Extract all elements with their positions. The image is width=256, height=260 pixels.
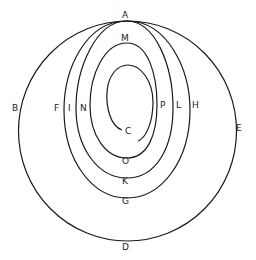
label-a: A [122,10,129,20]
loop-mno [90,43,157,158]
label-l: L [176,100,181,110]
label-g: G [122,196,129,206]
label-e: E [236,123,242,133]
label-b: B [12,103,18,113]
label-o: O [122,156,129,166]
label-n: N [80,103,87,113]
label-m: M [121,33,129,43]
label-i: I [68,103,71,113]
label-d: D [122,242,129,252]
label-f: F [54,103,59,113]
nested-curves-diagram: A M B F I N P L H E C O K G D [0,0,256,260]
label-p: P [160,100,166,110]
label-h: H [192,100,199,110]
label-c: C [125,126,131,136]
